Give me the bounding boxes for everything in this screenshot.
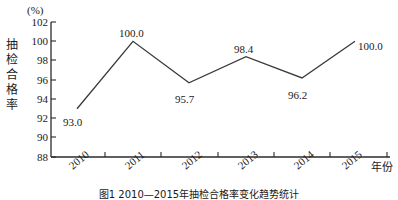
data-point-label: 95.7	[175, 94, 194, 105]
y-axis-ticks	[51, 22, 56, 157]
data-point-label: 98.4	[234, 44, 253, 55]
data-point-label: 100.0	[358, 41, 383, 52]
figure-caption: 图1 2010—2015年抽检合格率变化趋势统计	[0, 189, 398, 200]
axis-lines	[51, 22, 390, 157]
x-axis-title: 年份	[371, 162, 393, 173]
plot-area	[0, 0, 398, 200]
data-series-line	[77, 41, 355, 109]
data-point-label: 96.2	[288, 90, 307, 101]
chart-figure: (%) 抽 检 合 格 率 102 100 98 96 94 92 90 88	[0, 0, 398, 200]
data-point-label: 100.0	[119, 28, 144, 39]
data-point-label: 93.0	[63, 117, 82, 128]
